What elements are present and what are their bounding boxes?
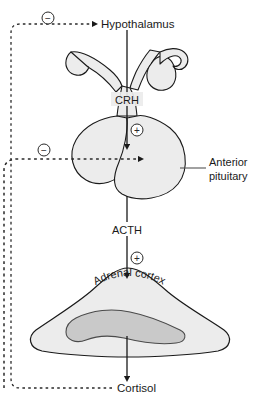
crh-label: CRH: [115, 94, 139, 106]
minus-sign-top-label: −: [45, 13, 51, 24]
crh-label-group: CRH: [111, 92, 143, 106]
acth-label-group: ACTH: [108, 222, 146, 236]
sign-plus-acth: +: [131, 252, 143, 264]
plus-sign-crh-label: +: [134, 125, 140, 136]
hpa-axis-svg: − − + + Hypothalamus CRH Anterior pituit…: [0, 0, 262, 403]
sign-plus-crh: +: [131, 124, 143, 136]
cortisol-label: Cortisol: [117, 382, 156, 394]
anterior-pituitary-label-line2: pituitary: [209, 170, 248, 182]
plus-sign-acth-label: +: [134, 253, 140, 264]
adrenal-gland-group: [30, 268, 229, 357]
minus-sign-middle-label: −: [41, 145, 47, 156]
acth-label: ACTH: [112, 224, 142, 236]
sign-minus-middle: −: [38, 144, 50, 156]
hpa-axis-diagram: − − + + Hypothalamus CRH Anterior pituit…: [0, 0, 262, 403]
hypothalamus-label: Hypothalamus: [101, 18, 175, 30]
sign-minus-top: −: [42, 12, 54, 24]
anterior-pituitary-label-line1: Anterior: [209, 156, 248, 168]
